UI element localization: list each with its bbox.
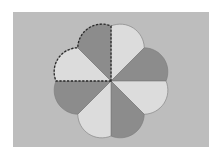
- flower-figure: [0, 0, 220, 156]
